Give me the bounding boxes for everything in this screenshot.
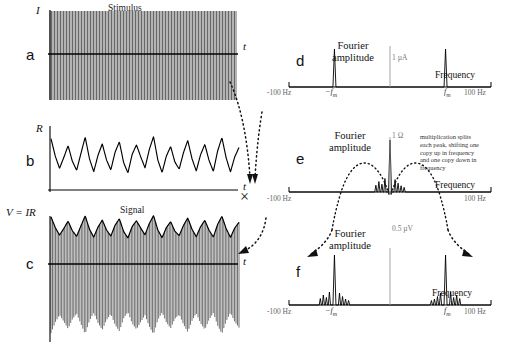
panel-d-fourier-line2: amplitude <box>332 52 374 63</box>
panel-a-title: Stimulus <box>108 3 142 13</box>
panel-label-c: c <box>26 255 34 272</box>
panel-label-f: f <box>296 263 300 280</box>
panel-d-svg <box>285 42 495 92</box>
figure-canvas: a I t Stimulus b R t c V = IR t Signal ×… <box>0 0 507 345</box>
panel-a-y-axis-label: I <box>36 4 40 16</box>
panel-a-svg <box>48 8 240 100</box>
panel-d-frequency-label: Frequency <box>435 70 475 80</box>
panel-c-y-axis-label: V = IR <box>6 206 36 218</box>
split-arc-up <box>391 163 448 230</box>
panel-d-tick-label-max: 100 Hz <box>464 88 486 97</box>
connector-arrow-to-c <box>236 214 270 260</box>
panel-f-tick-label-pos-fm: fm <box>444 306 451 317</box>
arrowhead-b <box>252 174 258 184</box>
panel-c-plot <box>48 212 240 342</box>
panel-b-plot <box>48 126 240 192</box>
split-arc-down <box>332 163 389 230</box>
panel-d-tick-label-neg-fm: −fm <box>325 87 337 98</box>
panel-c-envelope <box>51 216 239 238</box>
panel-label-d: d <box>296 52 304 69</box>
panel-c-title: Signal <box>120 205 144 215</box>
panel-f-fourier-title: Fourier amplitude <box>318 228 382 252</box>
arrowhead-a <box>247 174 253 184</box>
connector-arrows-left <box>228 78 264 208</box>
arrow-a-to-multiply <box>230 82 250 178</box>
panel-d-fourier-line1: Fourier <box>338 40 369 51</box>
panel-a-x-axis-label: t <box>243 40 246 52</box>
panel-b-svg <box>48 126 240 192</box>
panel-d-amplitude-tick: 1 µA <box>392 53 407 62</box>
panel-f-fourier-line2: amplitude <box>329 240 371 251</box>
panel-f-tick-label-max: 100 Hz <box>464 307 486 316</box>
panel-f-tick-label-min: -100 Hz <box>267 307 291 316</box>
panel-d-fourier-title: Fourier amplitude <box>322 40 384 64</box>
arrowhead-c <box>238 246 249 254</box>
panel-c-svg <box>48 212 240 342</box>
panel-f-fourier-line1: Fourier <box>335 228 366 239</box>
panel-b-waveform <box>51 137 239 172</box>
panel-d-plot <box>285 42 495 92</box>
panel-label-b: b <box>26 152 34 169</box>
panel-a-plot <box>48 8 240 100</box>
panel-f-amplitude-tick: 0.5 µV <box>392 224 413 233</box>
arrow-b-to-multiply <box>255 112 262 178</box>
panel-f-frequency-label: Frequency <box>432 288 472 298</box>
panel-label-a: a <box>26 46 34 63</box>
panel-f-svg <box>285 248 495 310</box>
panel-f-plot <box>285 248 495 310</box>
panel-b-y-axis-label: R <box>36 122 43 134</box>
panel-e-split-arcs <box>285 132 497 232</box>
panel-d-tick-label-min: -100 Hz <box>267 88 291 97</box>
panel-f-tick-label-neg-fm: −fm <box>325 306 337 317</box>
panel-d-tick-label-pos-fm: fm <box>444 87 451 98</box>
